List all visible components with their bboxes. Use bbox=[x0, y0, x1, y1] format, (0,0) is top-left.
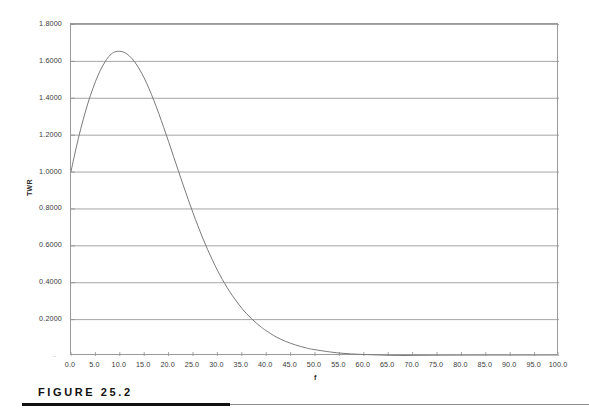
figure-caption: FIGURE 25.2 bbox=[38, 386, 133, 398]
y-tick-label: 1.6000 bbox=[39, 55, 62, 64]
caption-rule-thick bbox=[22, 403, 230, 406]
x-tick-label: 85.0 bbox=[478, 360, 492, 369]
x-tick-label: 35.0 bbox=[234, 360, 248, 369]
x-tick-label: 50.0 bbox=[307, 360, 321, 369]
caption-rule-thin bbox=[230, 404, 589, 405]
gridlines bbox=[71, 25, 559, 320]
y-tick-label: 0.4000 bbox=[39, 277, 62, 286]
x-tick-label: 40.0 bbox=[258, 360, 272, 369]
x-tick-label: 55.0 bbox=[331, 360, 345, 369]
y-tick-label: 0.6000 bbox=[39, 240, 62, 249]
plot-area bbox=[70, 23, 558, 355]
plot-svg bbox=[71, 24, 559, 356]
x-tick-label: 75.0 bbox=[429, 360, 443, 369]
x-tick-label: 90.0 bbox=[502, 360, 516, 369]
y-tick-label: 1.0000 bbox=[39, 166, 62, 175]
y-tick-label: 0.8000 bbox=[39, 203, 62, 212]
x-tick-label: 30.0 bbox=[209, 360, 223, 369]
y-tick-label: 1.8000 bbox=[39, 19, 62, 28]
y-tick-label: - bbox=[53, 351, 56, 360]
figure-caption-block: FIGURE 25.2 bbox=[0, 386, 589, 413]
x-tick-label: 20.0 bbox=[160, 360, 174, 369]
x-axis: 0.05.010.015.020.025.030.035.040.045.050… bbox=[0, 360, 589, 374]
twr-vs-f-chart: -0.20000.40000.60000.80001.00001.20001.4… bbox=[0, 0, 589, 390]
x-tick-label: 25.0 bbox=[185, 360, 199, 369]
x-tick-label: 80.0 bbox=[453, 360, 467, 369]
x-tick-label: 70.0 bbox=[404, 360, 418, 369]
y-tick-marks bbox=[71, 25, 75, 357]
y-axis-title: TWR bbox=[26, 179, 33, 196]
x-tick-label: 10.0 bbox=[112, 360, 126, 369]
y-axis: -0.20000.40000.60000.80001.00001.20001.4… bbox=[0, 0, 70, 390]
figure-25-2: -0.20000.40000.60000.80001.00001.20001.4… bbox=[0, 0, 589, 413]
x-tick-label: 0.0 bbox=[65, 360, 75, 369]
y-tick-label: 1.4000 bbox=[39, 92, 62, 101]
x-axis-title: f bbox=[314, 373, 316, 382]
x-tick-label: 60.0 bbox=[356, 360, 370, 369]
x-tick-label: 100.0 bbox=[549, 360, 568, 369]
x-tick-label: 45.0 bbox=[282, 360, 296, 369]
y-tick-label: 0.2000 bbox=[39, 314, 62, 323]
x-tick-label: 65.0 bbox=[380, 360, 394, 369]
x-tick-label: 5.0 bbox=[89, 360, 99, 369]
x-tick-label: 15.0 bbox=[136, 360, 150, 369]
x-tick-marks bbox=[71, 352, 559, 356]
twr-curve bbox=[71, 51, 559, 356]
y-tick-label: 1.2000 bbox=[39, 129, 62, 138]
x-tick-label: 95.0 bbox=[526, 360, 540, 369]
